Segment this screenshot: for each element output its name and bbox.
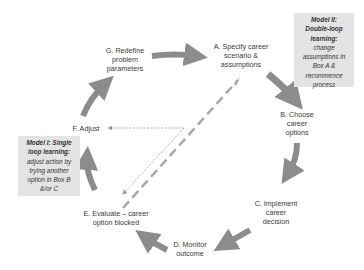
node-g-line: G. Redefine — [100, 46, 150, 55]
dotted-arrow-to-e — [124, 128, 184, 193]
node-b-line: options — [272, 128, 322, 137]
model-i-body: option in Box B — [20, 175, 78, 184]
node-c-line: decision — [249, 217, 303, 226]
node-f-line: F. Adjust — [66, 124, 106, 133]
model-i-body: adjust action by — [20, 157, 78, 166]
model-i-body: trying another — [20, 166, 78, 175]
node-e-line: option blocked — [78, 218, 154, 227]
node-d-monitor: D. Monitor outcome — [166, 240, 214, 258]
node-g-line: problem — [100, 55, 150, 64]
arrow-c-to-d — [224, 230, 250, 245]
model-i-title: loop learning: — [20, 147, 78, 156]
model-i-single-loop-box: Model I: Single loop learning: adjust ac… — [18, 136, 80, 196]
arrow-d-to-e — [145, 237, 167, 250]
arrow-b-to-c — [288, 143, 297, 174]
node-a-line: scenario & — [205, 51, 277, 60]
node-a-line: assumptions — [205, 60, 277, 69]
node-g-redefine: G. Redefine problem parameters — [100, 46, 150, 73]
node-c-implement: C. Implement career decision — [249, 199, 303, 226]
model-ii-body: recommence — [296, 71, 352, 80]
model-ii-body: process — [296, 80, 352, 89]
model-i-title: Model I: Single — [20, 138, 78, 147]
node-f-adjust: F. Adjust — [66, 124, 106, 133]
model-ii-double-loop-box: Model II: Double-loop learning: change a… — [294, 13, 354, 87]
arrow-a-to-b — [268, 74, 294, 99]
model-i-body: &/or C — [20, 184, 78, 193]
node-c-line: C. Implement — [249, 199, 303, 208]
node-b-choose: B. Choose career options — [272, 110, 322, 137]
model-ii-body: change — [296, 43, 352, 52]
model-ii-title: Model II: — [296, 15, 352, 24]
node-a-line: A. Specify career — [205, 42, 277, 51]
arrow-f-to-g — [83, 84, 105, 116]
arrow-e-to-f — [87, 158, 95, 190]
node-g-line: parameters — [100, 64, 150, 73]
node-b-line: career — [272, 119, 322, 128]
node-b-line: B. Choose — [272, 110, 322, 119]
model-ii-title: learning: — [296, 34, 352, 43]
dashed-arrow-e-to-a — [123, 80, 238, 208]
model-ii-body: assumptions in — [296, 52, 352, 61]
arrow-g-to-a — [152, 55, 196, 57]
node-e-evaluate: E. Evaluate – career option blocked — [78, 209, 154, 227]
node-d-line: outcome — [166, 249, 214, 258]
model-ii-body: Box A & — [296, 61, 352, 70]
model-ii-title: Double-loop — [296, 24, 352, 33]
node-c-line: career — [249, 208, 303, 217]
node-d-line: D. Monitor — [166, 240, 214, 249]
node-a-specify: A. Specify career scenario & assumptions — [205, 42, 277, 69]
node-e-line: E. Evaluate – career — [78, 209, 154, 218]
